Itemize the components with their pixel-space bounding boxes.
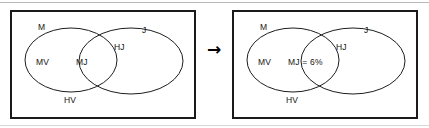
- venn-diagram-figure: M J MV MJ HJ HV → M J MV MJ = 6% HJ HV: [0, 0, 429, 128]
- venn-diagram-before: M J MV MJ HJ HV: [10, 10, 196, 119]
- region-label-hj: HJ: [114, 43, 125, 52]
- region-label-mv: MV: [258, 58, 271, 67]
- region-label-hj: HJ: [336, 43, 347, 52]
- set-label-m: M: [38, 23, 45, 32]
- venn-diagram-after: M J MV MJ = 6% HJ HV: [232, 10, 418, 119]
- set-label-j: J: [364, 26, 368, 35]
- set-label-j: J: [142, 26, 146, 35]
- region-label-mv: MV: [36, 58, 49, 67]
- region-label-mj: MJ: [76, 58, 88, 67]
- right-arrow-icon: →: [203, 38, 225, 60]
- set-label-m: M: [260, 23, 267, 32]
- region-label-hv: HV: [286, 96, 298, 105]
- set-j-ellipse: [79, 28, 183, 94]
- region-label-hv: HV: [64, 96, 76, 105]
- region-label-mj-value: MJ = 6%: [288, 58, 323, 67]
